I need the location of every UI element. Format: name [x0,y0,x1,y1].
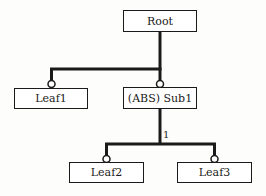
node-leaf3[interactable]: Leaf3 [177,162,252,183]
node-leaf1[interactable]: Leaf1 [14,88,88,109]
node-sub1[interactable]: (ABS) Sub1 [123,87,197,109]
leaf1-optional-circle-icon [48,81,55,88]
group-cardinality-label: 1 [163,129,169,140]
feature-diagram: Root Leaf1 (ABS) Sub1 1 Leaf2 Leaf3 [0,0,266,196]
node-leaf2[interactable]: Leaf2 [69,162,144,183]
node-root[interactable]: Root [123,10,197,32]
